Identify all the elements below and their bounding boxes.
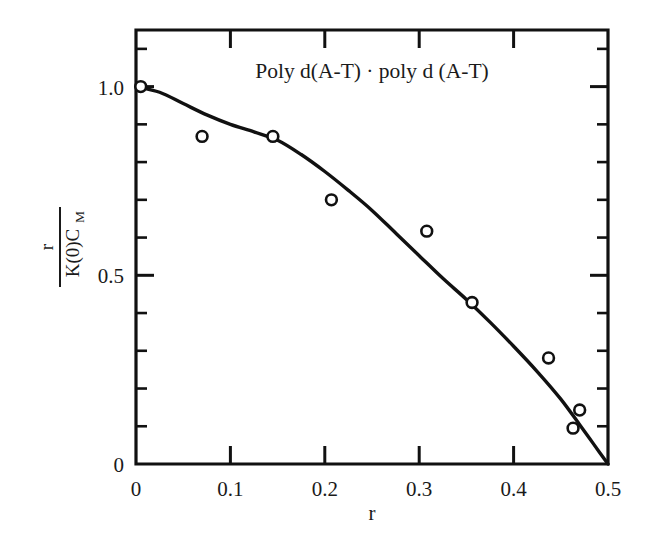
data-point bbox=[543, 353, 554, 364]
y-axis-denominator: K(0)C bbox=[62, 229, 84, 278]
y-tick-label: 0 bbox=[114, 453, 125, 477]
figure-container: 00.10.20.30.40.5 00.51.0 Poly d(A-T) · p… bbox=[0, 0, 655, 540]
plot-title: Poly d(A-T) · poly d (A-T) bbox=[255, 59, 488, 83]
x-tick-label: 0.5 bbox=[595, 477, 621, 501]
x-tick-label: 0.2 bbox=[312, 477, 338, 501]
data-point bbox=[197, 131, 208, 142]
data-point bbox=[467, 297, 478, 308]
y-axis-denominator-subscript: M bbox=[72, 211, 87, 223]
scatter-plot: 00.10.20.30.40.5 00.51.0 Poly d(A-T) · p… bbox=[0, 0, 655, 540]
x-tick-label: 0.3 bbox=[406, 477, 432, 501]
y-axis-numerator: r bbox=[36, 243, 57, 250]
x-tick-label: 0 bbox=[131, 477, 142, 501]
data-point bbox=[135, 81, 146, 92]
x-tick-label: 0.1 bbox=[217, 477, 243, 501]
y-tick-label: 1.0 bbox=[98, 76, 124, 100]
data-point bbox=[267, 131, 278, 142]
x-axis-title: r bbox=[369, 501, 376, 525]
data-point bbox=[421, 226, 432, 237]
x-tick-label: 0.4 bbox=[500, 477, 527, 501]
y-tick-label: 0.5 bbox=[98, 264, 124, 288]
data-point bbox=[326, 194, 337, 205]
data-point bbox=[568, 423, 579, 434]
data-point bbox=[574, 405, 585, 416]
